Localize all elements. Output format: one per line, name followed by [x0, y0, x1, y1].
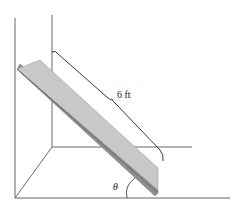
- diagram-canvas: [0, 0, 235, 206]
- floor-diagonal: [15, 147, 52, 198]
- angle-label: θ: [113, 181, 118, 192]
- length-label: 6 ft: [117, 89, 131, 100]
- angle-arc: [126, 178, 135, 198]
- board-edge: [17, 69, 157, 192]
